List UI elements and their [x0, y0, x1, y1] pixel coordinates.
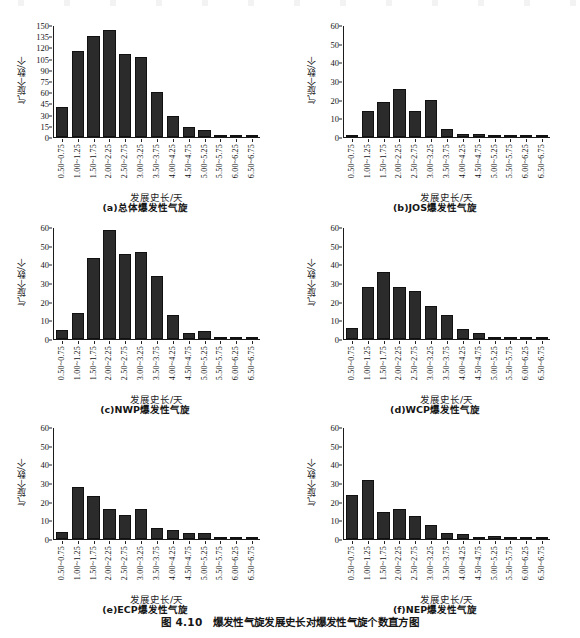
x-tick-label-slot: 4.50~4.75	[181, 546, 197, 592]
chart-panel-b: 气旋个数/个01020304050600.50~0.751.00~1.251.5…	[290, 8, 580, 210]
y-tick-label: 20	[331, 96, 340, 105]
bar	[183, 533, 195, 539]
x-tick-mark	[542, 541, 543, 544]
x-tick-mark	[415, 139, 416, 142]
y-tick-label: 105	[36, 55, 49, 64]
y-tick-mark	[339, 540, 342, 541]
y-tick-mark	[49, 446, 52, 447]
bar	[393, 89, 405, 137]
x-tick-label-slot: 6.50~6.75	[534, 546, 550, 592]
y-tick-mark	[339, 446, 342, 447]
bar-slot	[439, 428, 455, 539]
x-tick-label: 6.00~6.25	[232, 144, 240, 178]
x-axis-line	[53, 339, 260, 340]
y-tick-label: 10	[331, 115, 340, 124]
y-tick-label: 20	[41, 498, 50, 507]
x-tick-mark	[447, 139, 448, 142]
x-tick-mark	[479, 139, 480, 142]
x-tick-label-slot: 4.00~4.25	[165, 144, 181, 190]
x-tick-label-slot: 5.00~5.25	[197, 144, 213, 190]
bar	[183, 333, 195, 339]
bar-slot	[471, 26, 487, 137]
bar	[473, 333, 485, 339]
x-tick-mark	[125, 341, 126, 344]
bar	[377, 272, 389, 339]
x-tick-label: 2.00~2.25	[395, 144, 403, 178]
bar-slot	[244, 228, 260, 339]
y-tick-mark	[339, 26, 342, 27]
bar	[103, 509, 115, 539]
y-tick-mark	[49, 321, 52, 322]
x-tick-mark	[399, 541, 400, 544]
bar-slot	[455, 428, 471, 539]
x-tick-mark	[62, 139, 63, 142]
bar	[441, 533, 453, 539]
x-tick-label: 0.50~0.75	[348, 346, 356, 380]
bar-slot	[181, 228, 197, 339]
x-tick-label: 5.00~5.25	[491, 346, 499, 380]
x-tick-label-slot: 2.00~2.25	[392, 546, 408, 592]
x-tick-mark	[157, 139, 158, 142]
bar-slot	[133, 26, 149, 137]
x-tick-mark	[384, 139, 385, 142]
x-tick-label-slot: 1.00~1.25	[70, 144, 86, 190]
x-tick-mark	[431, 541, 432, 544]
plot-area-c: 气旋个数/个01020304050600.50~0.751.00~1.251.5…	[0, 210, 290, 352]
x-tick-label: 2.50~2.75	[411, 546, 419, 580]
bar	[409, 291, 421, 339]
x-tick-label: 4.00~4.25	[459, 546, 467, 580]
x-tick-label-slot: 6.50~6.75	[244, 546, 260, 592]
x-tick-mark	[109, 541, 110, 544]
x-tick-mark	[252, 541, 253, 544]
chart-panel-a: 气旋个数/个01530456075901051201351500.50~0.75…	[0, 8, 290, 210]
x-axis-tick-labels-c: 0.50~0.751.00~1.251.50~1.752.00~2.252.50…	[54, 346, 260, 392]
axes-d	[343, 228, 550, 340]
y-tick-label: 10	[331, 517, 340, 526]
x-tick-label: 2.00~2.25	[395, 546, 403, 580]
x-tick-label-slot: 2.00~2.25	[392, 144, 408, 190]
bar-slot	[212, 228, 228, 339]
bar-slot	[181, 26, 197, 137]
y-tick-mark	[339, 340, 342, 341]
bar-slot	[197, 228, 213, 339]
x-tick-label: 1.00~1.25	[364, 546, 372, 580]
x-tick-label-slot: 4.00~4.25	[455, 346, 471, 392]
bar	[230, 537, 242, 539]
x-tick-label: 4.00~4.25	[169, 346, 177, 380]
x-tick-mark	[189, 341, 190, 344]
y-tick-label: 30	[331, 480, 340, 489]
bar-slot	[439, 228, 455, 339]
plot-area-a: 气旋个数/个01530456075901051201351500.50~0.75…	[0, 8, 290, 150]
x-tick-label: 2.50~2.75	[411, 144, 419, 178]
y-tick-label: 60	[41, 424, 50, 433]
x-axis-tick-labels-d: 0.50~0.751.00~1.251.50~1.752.00~2.252.50…	[344, 346, 550, 392]
axes-f	[343, 428, 550, 540]
bar	[362, 480, 374, 539]
bar-series-e	[54, 428, 260, 539]
x-axis-line	[53, 539, 260, 540]
bar	[135, 509, 147, 539]
bar	[246, 537, 258, 539]
chart-panel-d: 气旋个数/个01020304050600.50~0.751.00~1.251.5…	[290, 210, 580, 410]
x-tick-label-slot: 5.00~5.25	[197, 546, 213, 592]
x-tick-label-slot: 1.50~1.75	[376, 346, 392, 392]
x-tick-mark	[205, 541, 206, 544]
x-tick-label: 2.00~2.25	[105, 144, 113, 178]
x-tick-label: 3.50~3.75	[153, 144, 161, 178]
y-tick-label: 30	[331, 78, 340, 87]
bar-slot	[102, 228, 118, 339]
y-tick-label: 20	[41, 298, 50, 307]
chart-panel-e: 气旋个数/个01020304050600.50~0.751.00~1.251.5…	[0, 410, 290, 610]
bar-slot	[86, 26, 102, 137]
bar	[87, 36, 99, 137]
x-tick-label-slot: 3.00~3.25	[133, 144, 149, 190]
bar-series-a	[54, 26, 260, 137]
x-tick-label-slot: 3.50~3.75	[149, 546, 165, 592]
bar-slot	[534, 228, 550, 339]
bar-slot	[471, 428, 487, 539]
bar-slot	[487, 428, 503, 539]
bar	[119, 515, 131, 539]
x-tick-label: 4.00~4.25	[459, 144, 467, 178]
bar-slot	[70, 428, 86, 539]
bar-slot	[392, 428, 408, 539]
